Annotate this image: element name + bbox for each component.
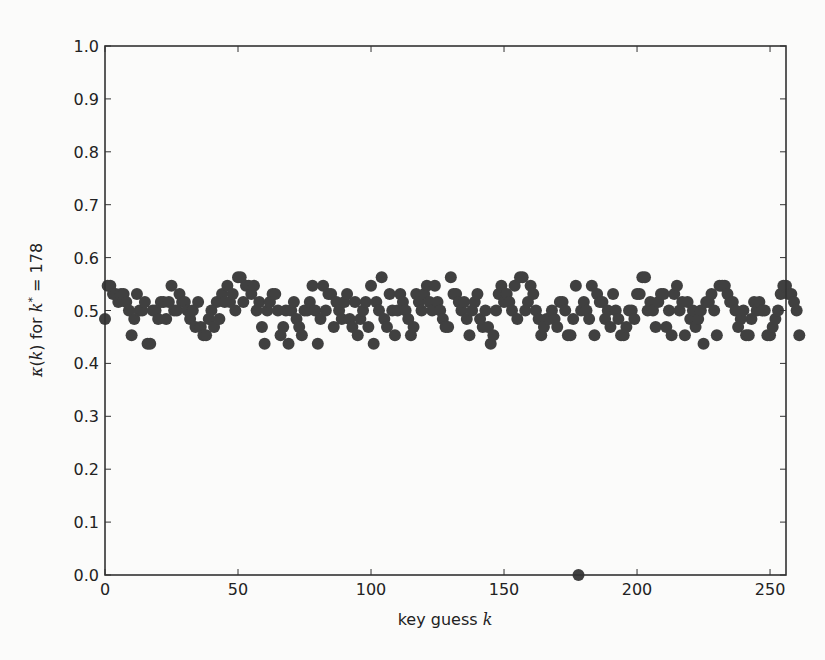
y-tick-label: 0.3 xyxy=(74,407,99,426)
x-axis-label-text: key guess xyxy=(398,610,483,629)
data-point xyxy=(376,271,388,283)
data-point xyxy=(126,329,138,341)
x-tick-label: 0 xyxy=(100,580,110,599)
x-tick-label: 150 xyxy=(489,580,520,599)
x-axis-label-var: k xyxy=(483,610,493,629)
data-point xyxy=(288,296,300,308)
data-point xyxy=(628,313,640,325)
data-point xyxy=(296,329,308,341)
data-point xyxy=(639,271,651,283)
data-point xyxy=(429,280,441,292)
data-point xyxy=(570,280,582,292)
data-point xyxy=(671,280,683,292)
data-point xyxy=(269,288,281,300)
svg-text:κ(k) for k* = 178: κ(k) for k* = 178 xyxy=(26,243,46,378)
data-point xyxy=(256,321,268,333)
y-tick-label: 1.0 xyxy=(74,37,99,56)
data-point xyxy=(463,329,475,341)
x-tick-label: 50 xyxy=(228,580,248,599)
data-point xyxy=(144,338,156,350)
data-point xyxy=(192,296,204,308)
data-point xyxy=(743,329,755,341)
data-point xyxy=(711,329,723,341)
data-points xyxy=(99,271,805,581)
data-point xyxy=(227,288,239,300)
y-tick-label: 0.4 xyxy=(74,354,99,373)
data-point xyxy=(551,321,563,333)
y-tick-label: 0.7 xyxy=(74,196,99,215)
data-point xyxy=(666,329,678,341)
x-tick-label: 100 xyxy=(356,580,387,599)
data-point xyxy=(360,296,372,308)
data-point xyxy=(634,288,646,300)
data-point xyxy=(445,271,457,283)
y-tick-label: 0.1 xyxy=(74,513,99,532)
data-point xyxy=(791,305,803,317)
data-point xyxy=(277,321,289,333)
data-point xyxy=(368,338,380,350)
data-point xyxy=(708,305,720,317)
data-point xyxy=(312,338,324,350)
y-tick-label: 0.2 xyxy=(74,460,99,479)
x-tick-label: 250 xyxy=(755,580,786,599)
x-tick-label: 200 xyxy=(622,580,653,599)
data-point xyxy=(487,329,499,341)
data-point xyxy=(565,329,577,341)
data-point xyxy=(471,288,483,300)
data-point xyxy=(663,305,675,317)
data-point xyxy=(442,321,454,333)
data-point xyxy=(365,280,377,292)
data-point xyxy=(679,329,691,341)
data-point xyxy=(479,305,491,317)
data-point xyxy=(362,321,374,333)
data-point xyxy=(607,288,619,300)
scatter-chart: 0.00.10.20.30.40.50.60.70.80.91.0 050100… xyxy=(0,0,825,660)
y-tick-label: 0.9 xyxy=(74,90,99,109)
data-point xyxy=(389,329,401,341)
y-tick-label: 0.6 xyxy=(74,249,99,268)
y-tick-label: 0.8 xyxy=(74,143,99,162)
data-point xyxy=(384,288,396,300)
data-point xyxy=(527,288,539,300)
data-point xyxy=(259,338,271,350)
data-point xyxy=(283,338,295,350)
data-point xyxy=(306,280,318,292)
data-point xyxy=(408,321,420,333)
x-axis-label: key guess k xyxy=(398,610,493,629)
data-point xyxy=(698,338,710,350)
data-point xyxy=(588,329,600,341)
data-point xyxy=(759,305,771,317)
data-point xyxy=(650,321,662,333)
data-point xyxy=(213,313,225,325)
data-point xyxy=(248,280,260,292)
data-point xyxy=(320,305,332,317)
data-point xyxy=(793,329,805,341)
data-point xyxy=(352,329,364,341)
data-point xyxy=(583,313,595,325)
y-tick-label: 0.5 xyxy=(74,302,99,321)
y-tick-label: 0.0 xyxy=(74,566,99,585)
y-axis-label: κ(k) for k* = 178 xyxy=(26,243,46,378)
data-point xyxy=(658,288,670,300)
